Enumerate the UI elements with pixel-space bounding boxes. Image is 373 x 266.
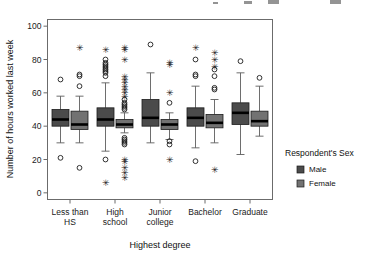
y-tick-label: 60 — [32, 88, 42, 98]
extreme-outlier-point: ✳ — [76, 43, 84, 53]
x-tick-label: school — [103, 217, 128, 227]
legend-swatch — [297, 166, 304, 173]
extreme-outlier-point: ✳ — [166, 88, 174, 98]
extreme-outlier-point: ✳ — [121, 92, 129, 102]
legend-item-label: Male — [309, 165, 327, 174]
y-tick-label: 80 — [32, 55, 42, 65]
y-axis-title: Number of hours worked last week — [5, 39, 15, 178]
legend-item-label: Female — [309, 179, 336, 188]
extreme-outlier-point: ✳ — [166, 60, 174, 70]
figure-background — [0, 0, 373, 266]
y-tick-label: 100 — [27, 21, 41, 31]
y-tick-label: 0 — [37, 188, 42, 198]
extreme-outlier-point: ✳ — [121, 45, 129, 55]
extreme-outlier-point: ✳ — [102, 45, 110, 55]
extreme-outlier-point: ✳ — [211, 165, 219, 175]
x-tick-label: High — [106, 207, 124, 217]
x-axis-title: Highest degree — [129, 240, 190, 250]
extreme-outlier-point: ✳ — [121, 173, 129, 183]
x-tick-label: Junior — [148, 207, 171, 217]
extreme-outlier-point: ✳ — [121, 55, 129, 65]
x-tick-label: Graduate — [232, 207, 268, 217]
y-tick-label: 20 — [32, 155, 42, 165]
x-tick-label: Less than — [52, 207, 89, 217]
box-plot-figure: 020406080100 Less thanHSHighschoolJunior… — [0, 0, 373, 266]
extreme-outlier-point: ✳ — [192, 43, 200, 53]
legend-swatch — [297, 180, 304, 187]
extreme-outlier-point: ✳ — [166, 155, 174, 165]
extreme-outlier-point: ✳ — [211, 62, 219, 72]
legend-title: Respondent's Sex — [285, 148, 354, 158]
x-tick-label: college — [147, 217, 174, 227]
extreme-outlier-point: ✳ — [102, 178, 110, 188]
x-tick-label: HS — [64, 217, 76, 227]
x-tick-label: Bachelor — [188, 207, 222, 217]
chart-canvas: 020406080100 Less thanHSHighschoolJunior… — [0, 0, 373, 266]
legend-item-male[interactable]: Male — [297, 165, 327, 174]
legend-item-female[interactable]: Female — [297, 179, 336, 188]
y-tick-label: 40 — [32, 121, 42, 131]
